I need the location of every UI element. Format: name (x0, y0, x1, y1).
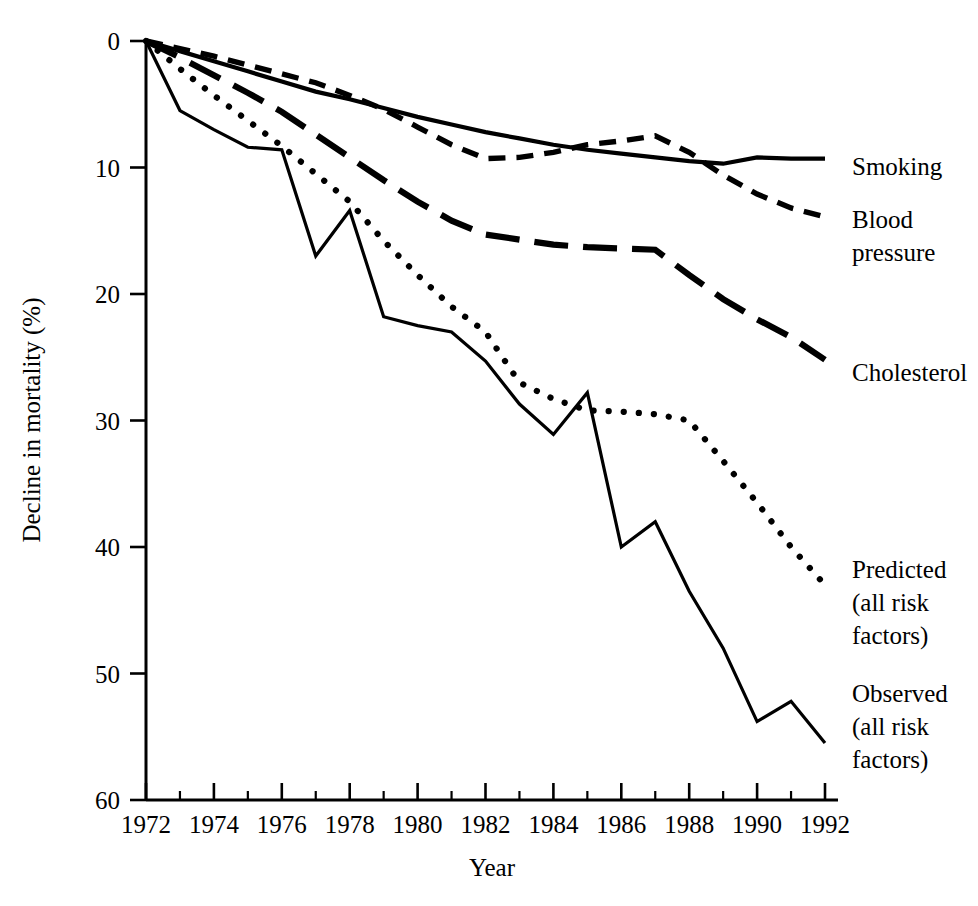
series-line-smoking (146, 41, 825, 164)
series-label-observed-line2: (all risk (852, 713, 930, 741)
series-label-predicted-line2: (all risk (852, 589, 930, 617)
x-tick-label-1986: 1986 (596, 811, 646, 838)
series-label-smoking: Smoking (852, 153, 943, 180)
y-tick-label-30: 30 (95, 408, 120, 435)
y-tick-label-50: 50 (95, 661, 120, 688)
series-line-blood-pressure (146, 41, 825, 217)
series-label-predicted-line3: factors) (852, 622, 928, 650)
x-tick-label-1988: 1988 (664, 811, 714, 838)
series-line-predicted (146, 41, 825, 585)
y-tick-label-40: 40 (95, 534, 120, 561)
x-tick-label-1984: 1984 (528, 811, 579, 838)
x-tick-label-1990: 1990 (732, 811, 782, 838)
series-label-blood-pressure-line2: pressure (852, 239, 935, 266)
x-tick-label-1974: 1974 (189, 811, 240, 838)
y-axis-title: Decline in mortality (%) (18, 297, 46, 542)
y-axis-tick-labels: 0102030405060 (95, 28, 120, 814)
x-tick-label-1992: 1992 (800, 811, 850, 838)
x-axis-title: Year (469, 854, 516, 881)
y-axis-ticks (130, 41, 146, 800)
x-axis-tick-labels: 1972197419761978198019821984198619881990… (121, 811, 850, 838)
x-tick-label-1978: 1978 (325, 811, 375, 838)
x-tick-label-1976: 1976 (257, 811, 307, 838)
x-tick-label-1980: 1980 (393, 811, 443, 838)
series-line-observed (146, 41, 825, 743)
series-label-predicted-line1: Predicted (852, 556, 947, 583)
y-tick-label-20: 20 (95, 281, 120, 308)
y-tick-label-0: 0 (108, 28, 121, 55)
chart-figure: 0102030405060 19721974197619781980198219… (0, 0, 978, 906)
series-label-observed-line1: Observed (852, 680, 948, 707)
series-line-cholesterol (146, 41, 825, 360)
line-chart: 0102030405060 19721974197619781980198219… (0, 0, 978, 906)
series-label-cholesterol: Cholesterol (852, 359, 967, 386)
x-tick-label-1972: 1972 (121, 811, 171, 838)
x-tick-label-1982: 1982 (461, 811, 511, 838)
y-tick-label-60: 60 (95, 787, 120, 814)
y-tick-label-10: 10 (95, 155, 120, 182)
series-label-observed-line3: factors) (852, 746, 928, 774)
series-label-blood-pressure-line1: Blood (852, 206, 914, 233)
